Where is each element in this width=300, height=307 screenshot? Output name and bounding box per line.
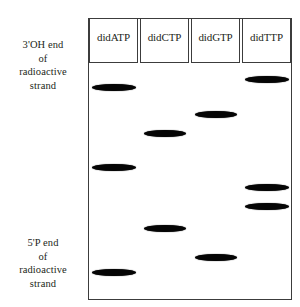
gel-band-didatp-2: [92, 164, 136, 171]
gel-band-didttp-3: [245, 203, 289, 210]
gel-band-didgtp-2: [195, 254, 237, 261]
gel-band-didatp-3: [92, 269, 136, 276]
gel-band-didatp-1: [92, 84, 136, 91]
gel-band-didttp-2: [245, 184, 289, 191]
sequencing-gel-figure: 3'OH end of radioactive strand 5'P end o…: [0, 0, 300, 307]
gel-band-didttp-1: [245, 76, 289, 83]
gel-bands-layer: [0, 0, 300, 307]
gel-band-didctp-1: [144, 130, 186, 137]
gel-band-didgtp-1: [195, 111, 237, 118]
gel-band-didctp-2: [144, 225, 186, 232]
